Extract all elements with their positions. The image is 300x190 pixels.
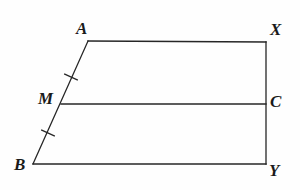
segment-AX — [88, 41, 266, 42]
vertex-label-b: B — [14, 156, 25, 173]
geometry-figure: A X M C B Y — [0, 0, 300, 190]
vertex-label-m: M — [38, 90, 53, 107]
vertex-label-y: Y — [269, 162, 279, 179]
vertex-label-x: X — [270, 21, 281, 38]
vertex-label-a: A — [76, 20, 87, 37]
vertex-label-c: C — [270, 93, 281, 110]
segments-group — [33, 41, 266, 164]
